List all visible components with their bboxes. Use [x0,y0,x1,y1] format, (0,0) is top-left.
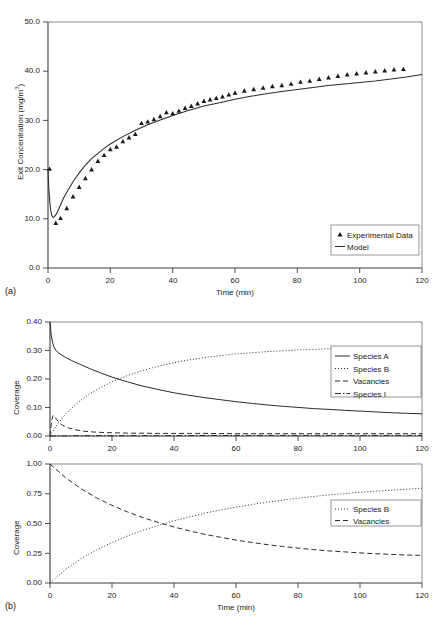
panel-b-bottom-x-ticks [50,583,422,588]
panel-b-top-ytick-1: 0.10 [12,403,42,412]
panel-a-xtick-6: 120 [407,276,437,285]
panel-a-y-axis-title-exponent: 3 [14,87,20,90]
panel-a-y-ticks [43,22,48,268]
panel-a-ytick-1: 10.0 [12,214,40,223]
panel-b-bottom-ytick-0: 0.00 [12,578,42,587]
panel-b-top-series-vacancies [50,416,422,437]
panel-b-top-ytick-3: 0.30 [12,346,42,355]
panel-b-bottom-y-ticks [45,464,50,583]
panel-a-xtick-4: 80 [282,276,312,285]
panel-b-bottom-legend: Species B Vacancies [331,500,421,526]
panel-b-bottom-xtick-4: 80 [283,591,313,600]
panel-b-bottom-xtick-5: 100 [345,591,375,600]
panel-a-ytick-0: 0.0 [12,263,40,272]
panel-a-legend-label-model: Model [347,243,369,252]
panel-b-bottom-ytick-4: 1.00 [12,459,42,468]
panel-a-x-axis-title: Time (min) [185,288,285,297]
panel-b-bottom-xtick-0: 0 [35,591,65,600]
panel-a-ytick-3: 30.0 [12,116,40,125]
panel-b-bottom-legend-label-vacancies: Vacancies [353,517,389,526]
panel-b-label: (b) [5,601,16,611]
panel-a-xtick-2: 40 [158,276,188,285]
panel-a-x-ticks [48,268,422,273]
panel-b-top-y-ticks [45,322,50,436]
panel-b-top-legend-label-vacancies: Vacancies [353,377,389,386]
scientific-figure: Exit Concentration (mg/m3) [0,0,442,628]
panel-a: Exit Concentration (mg/m3) [0,0,442,302]
panel-b-bottom-ytick-2: 0.50 [12,519,42,528]
panel-b-top-ytick-2: 0.20 [12,374,42,383]
panel-b-top-xtick-0: 0 [35,444,65,453]
panel-b-bottom-xtick-6: 120 [407,591,437,600]
panel-b-bottom-xtick-2: 40 [159,591,189,600]
panel-a-label: (a) [5,286,16,296]
panel-b-top-xtick-6: 120 [407,444,437,453]
panel-a-legend: Experimental Data Model [331,225,419,255]
panel-a-xtick-0: 0 [33,276,63,285]
panel-a-y-axis-title-tail: ) [16,84,25,87]
panel-b-bottom-ytick-1: 0.25 [12,549,42,558]
panel-a-ytick-2: 20.0 [12,165,40,174]
panel-a-ytick-5: 50.0 [12,17,40,26]
panel-b-top-ytick-0: 0.00 [12,431,42,440]
panel-a-series-experimental [47,67,406,225]
panel-a-xtick-5: 100 [345,276,375,285]
panel-b-top-legend-label-species-b: Species B [353,365,389,374]
panel-b-bottom: Coverage [0,455,442,628]
panel-b-top-xtick-3: 60 [221,444,251,453]
panel-a-series-model [48,75,422,218]
panel-b-top-legend: Species A Species B Vacancies Species I [331,346,421,399]
panel-a-xtick-1: 20 [95,276,125,285]
panel-b-top-x-ticks [50,436,422,441]
panel-b-top-xtick-5: 100 [345,444,375,453]
panel-b-top-ytick-4: 0.40 [12,317,42,326]
panel-b-bottom-x-axis-title: Time (min) [186,603,286,612]
panel-b-top-legend-label-species-a: Species A [353,352,389,361]
panel-b-top-legend-label-species-i: Species I [353,390,386,399]
panel-b-top: Coverage [0,310,442,460]
panel-a-ytick-4: 40.0 [12,66,40,75]
panel-a-legend-box [331,225,419,255]
panel-b-top-xtick-4: 80 [283,444,313,453]
panel-b-top-xtick-1: 20 [97,444,127,453]
panel-a-plot: Experimental Data Model [0,0,442,302]
panel-a-xtick-3: 60 [220,276,250,285]
panel-a-legend-label-experimental: Experimental Data [347,231,413,240]
panel-b-top-xtick-2: 40 [159,444,189,453]
panel-b-bottom-legend-label-species-b: Species B [353,505,389,514]
panel-b-bottom-xtick-1: 20 [97,591,127,600]
panel-b-bottom-ytick-3: 0.75 [12,489,42,498]
panel-b-bottom-xtick-3: 60 [221,591,251,600]
panel-b-top-plot: Species A Species B Vacancies Species I [0,310,442,460]
